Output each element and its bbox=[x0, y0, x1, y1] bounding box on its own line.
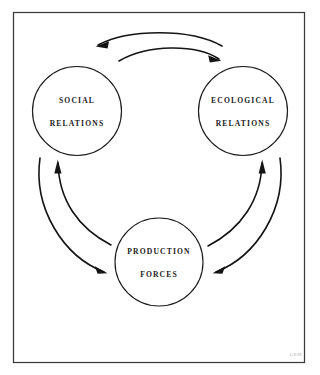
node-production-forces-label-line2: FORCES bbox=[140, 270, 178, 279]
node-production-forces[interactable]: PRODUCTION FORCES bbox=[115, 218, 203, 306]
node-social-relations-label-line1: SOCIAL bbox=[59, 96, 95, 105]
node-production-forces-circle bbox=[115, 218, 203, 306]
node-social-relations-circle bbox=[33, 67, 122, 156]
artist-monogram: GEM bbox=[290, 352, 303, 357]
node-ecological-relations-label-line1: ECOLOGICAL bbox=[211, 96, 275, 105]
border-frame bbox=[14, 13, 305, 363]
node-production-forces-label-line1: PRODUCTION bbox=[127, 247, 190, 256]
node-ecological-relations-label-line2: RELATIONS bbox=[216, 119, 271, 128]
node-ecological-relations-circle bbox=[199, 67, 288, 156]
diagram-canvas: SOCIAL RELATIONS ECOLOGICAL RELATIONS PR… bbox=[0, 0, 320, 375]
node-social-relations-label-line2: RELATIONS bbox=[50, 119, 105, 128]
node-social-relations[interactable]: SOCIAL RELATIONS bbox=[33, 67, 122, 156]
diagram-svg: SOCIAL RELATIONS ECOLOGICAL RELATIONS PR… bbox=[0, 0, 320, 375]
node-ecological-relations[interactable]: ECOLOGICAL RELATIONS bbox=[199, 67, 288, 156]
